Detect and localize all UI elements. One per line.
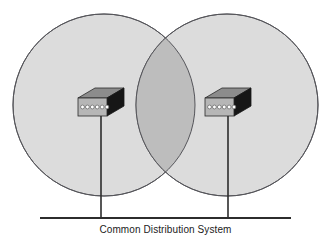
network-coverage-diagram: Common Distribution System bbox=[0, 0, 331, 241]
diagram-canvas bbox=[0, 0, 331, 241]
diagram-caption: Common Distribution System bbox=[0, 224, 331, 236]
